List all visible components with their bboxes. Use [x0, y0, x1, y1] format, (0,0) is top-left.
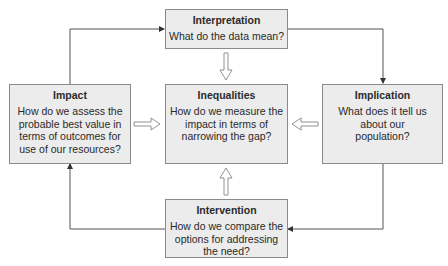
node-body: How do we measure the impact in terms of…	[166, 105, 287, 143]
node-body: How do we assess the probable best value…	[10, 105, 130, 155]
node-title: Implication	[323, 89, 442, 102]
node-body: How do we compare the options for addres…	[166, 220, 287, 258]
hollow-arrow-right-icon	[134, 118, 160, 130]
node-inequalities: Inequalities How do we measure the impac…	[165, 84, 288, 164]
hollow-arrow-down-icon	[220, 53, 232, 80]
node-title: Impact	[10, 89, 130, 102]
hollow-arrow-up-icon	[220, 168, 232, 195]
node-implication: Implication What does it tell us about o…	[322, 84, 443, 164]
node-intervention: Intervention How do we compare the optio…	[165, 199, 288, 258]
node-title: Inequalities	[166, 89, 287, 102]
node-interpretation: Interpretation What do the data mean?	[165, 9, 288, 49]
edge-intervention-to-impact	[70, 164, 165, 229]
node-body: What does it tell us about our populatio…	[323, 105, 442, 143]
edge-implication-to-intervention	[288, 163, 383, 229]
edge-impact-to-interpretation	[70, 29, 164, 84]
node-title: Intervention	[166, 204, 287, 217]
hollow-arrow-left-icon	[292, 118, 318, 130]
edge-interpretation-to-implication	[287, 29, 383, 83]
node-title: Interpretation	[166, 14, 287, 27]
node-body: What do the data mean?	[166, 30, 287, 43]
node-impact: Impact How do we assess the probable bes…	[9, 84, 131, 164]
